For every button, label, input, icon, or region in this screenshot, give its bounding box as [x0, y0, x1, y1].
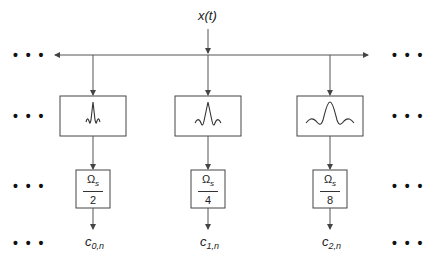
ellipsis-right-filter: • • •	[392, 111, 424, 121]
ellipsis-right-bus: • • •	[392, 50, 424, 60]
decimator-fraction-2: Ωs 8	[313, 173, 347, 207]
output-subscript: 1,n	[207, 241, 220, 251]
omega-subscript: s	[210, 179, 214, 188]
output-subscript: 0,n	[92, 241, 105, 251]
output-label-2: c2,n	[322, 234, 341, 251]
omega-symbol: Ω	[87, 173, 95, 185]
decimation-denominator: 4	[191, 194, 225, 207]
ellipsis-right-output: • • •	[392, 238, 424, 248]
decimation-denominator: 2	[76, 194, 110, 207]
output-label-0: c0,n	[85, 234, 104, 251]
filter-bank-diagram	[0, 0, 435, 260]
decimator-fraction-1: Ωs 4	[191, 173, 225, 207]
ellipsis-left-bus: • • •	[13, 50, 45, 60]
narrow-wavelet-icon	[86, 102, 100, 123]
output-subscript: 2,n	[329, 241, 342, 251]
omega-symbol: Ω	[202, 173, 210, 185]
omega-subscript: s	[332, 179, 336, 188]
ellipsis-left-decimator: • • •	[13, 181, 45, 191]
output-label-1: c1,n	[200, 234, 219, 251]
medium-wavelet-icon	[195, 102, 221, 125]
ellipsis-left-output: • • •	[13, 238, 45, 248]
fraction-bar	[320, 191, 340, 192]
input-signal-label: x(t)	[198, 8, 217, 23]
decimation-denominator: 8	[313, 194, 347, 207]
fraction-bar	[198, 191, 218, 192]
wide-wavelet-icon	[306, 102, 354, 124]
fraction-bar	[83, 191, 103, 192]
omega-subscript: s	[95, 179, 99, 188]
omega-symbol: Ω	[324, 173, 332, 185]
decimator-fraction-0: Ωs 2	[76, 173, 110, 207]
ellipsis-left-filter: • • •	[13, 111, 45, 121]
ellipsis-right-decimator: • • •	[392, 181, 424, 191]
